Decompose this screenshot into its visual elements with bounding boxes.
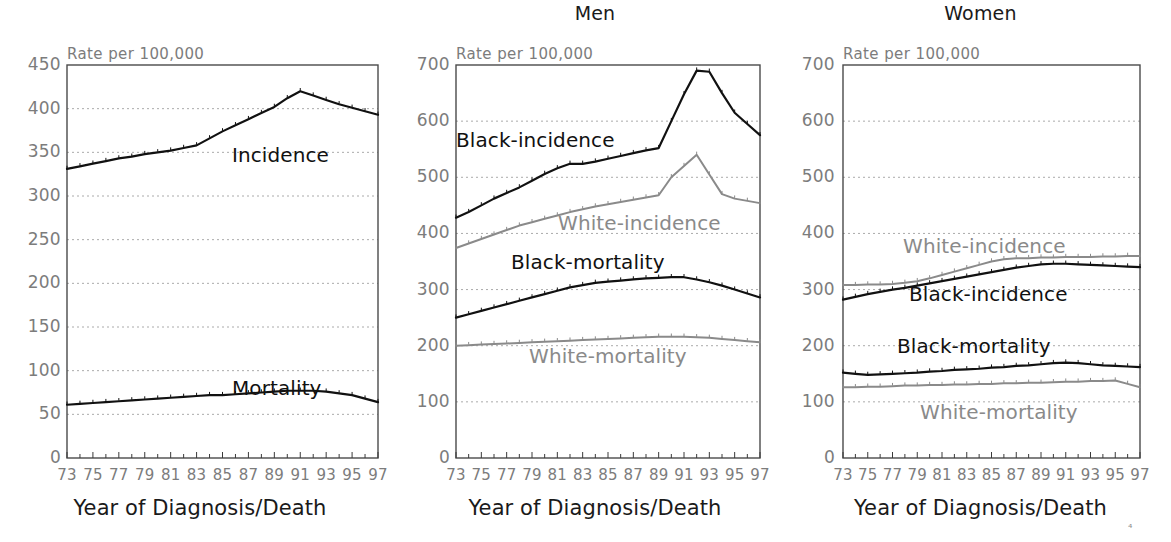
x-axis-tick-overall: 81 <box>157 466 185 484</box>
y-axis-tick-women: 700 <box>793 54 835 74</box>
x-axis-tick-overall: 89 <box>260 466 288 484</box>
y-axis-tick-women: 100 <box>793 391 835 411</box>
series-label-white-mortality: White-mortality <box>920 400 1078 424</box>
x-axis-tick-overall: 93 <box>312 466 340 484</box>
plot-area-women <box>790 0 1171 542</box>
y-axis-tick-women: 500 <box>793 166 835 186</box>
x-axis-title-men: Year of Diagnosis/Death <box>400 496 790 520</box>
y-axis-tick-men: 700 <box>406 54 450 74</box>
y-axis-tick-men: 600 <box>406 110 450 130</box>
y-axis-tick-overall: 50 <box>18 403 61 423</box>
y-axis-tick-women: 200 <box>793 335 835 355</box>
chart-panel-overall: Rate per 100,000 Year of Diagnosis/Death… <box>0 0 400 542</box>
x-axis-tick-men: 73 <box>442 466 470 484</box>
y-axis-tick-women: 300 <box>793 279 835 299</box>
series-label-white-incidence: White-incidence <box>903 234 1066 258</box>
y-axis-tick-overall: 450 <box>18 54 61 74</box>
y-axis-tick-women: 600 <box>793 110 835 130</box>
x-axis-tick-overall: 97 <box>364 466 392 484</box>
y-axis-tick-women: 0 <box>793 447 835 467</box>
y-axis-tick-overall: 400 <box>18 98 61 118</box>
series-label-black-incidence: Black-incidence <box>456 128 615 152</box>
y-axis-tick-men: 200 <box>406 335 450 355</box>
y-axis-tick-women: 400 <box>793 222 835 242</box>
y-axis-tick-overall: 200 <box>18 272 61 292</box>
x-axis-title-overall: Year of Diagnosis/Death <box>0 496 400 520</box>
x-axis-tick-men: 87 <box>619 466 647 484</box>
x-axis-title-women: Year of Diagnosis/Death <box>790 496 1171 520</box>
corner-artifact-mark: ⁴ <box>1128 522 1132 535</box>
y-axis-tick-overall: 100 <box>18 360 61 380</box>
chart-panel-men: Men Rate per 100,000 Year of Diagnosis/D… <box>400 0 790 542</box>
x-axis-tick-men: 79 <box>518 466 546 484</box>
x-axis-tick-men: 75 <box>467 466 495 484</box>
y-axis-tick-men: 100 <box>406 391 450 411</box>
series-label-incidence: Incidence <box>232 143 329 167</box>
x-axis-tick-men: 77 <box>493 466 521 484</box>
series-label-white-incidence: White-incidence <box>558 211 721 235</box>
x-axis-tick-men: 91 <box>670 466 698 484</box>
x-axis-tick-men: 85 <box>594 466 622 484</box>
y-axis-tick-overall: 250 <box>18 229 61 249</box>
x-axis-tick-men: 97 <box>746 466 774 484</box>
x-axis-tick-overall: 77 <box>105 466 133 484</box>
y-axis-tick-overall: 300 <box>18 185 61 205</box>
y-axis-tick-overall: 0 <box>18 447 61 467</box>
x-axis-tick-women: 97 <box>1126 466 1154 484</box>
x-axis-tick-men: 83 <box>569 466 597 484</box>
y-axis-tick-men: 400 <box>406 222 450 242</box>
x-axis-tick-overall: 85 <box>209 466 237 484</box>
x-axis-tick-overall: 83 <box>183 466 211 484</box>
y-axis-tick-men: 300 <box>406 279 450 299</box>
x-axis-tick-overall: 73 <box>53 466 81 484</box>
x-axis-tick-overall: 95 <box>338 466 366 484</box>
x-axis-tick-men: 89 <box>645 466 673 484</box>
y-axis-tick-overall: 150 <box>18 316 61 336</box>
x-axis-tick-overall: 75 <box>79 466 107 484</box>
y-axis-tick-men: 500 <box>406 166 450 186</box>
series-label-black-mortality: Black-mortality <box>897 334 1051 358</box>
x-axis-tick-men: 81 <box>543 466 571 484</box>
series-label-mortality: Mortality <box>232 376 322 400</box>
series-label-white-mortality: White-mortality <box>529 344 687 368</box>
series-label-black-incidence: Black-incidence <box>909 282 1068 306</box>
chart-panel-women: Women Rate per 100,000 Year of Diagnosis… <box>790 0 1171 542</box>
x-axis-tick-men: 93 <box>695 466 723 484</box>
x-axis-tick-overall: 79 <box>131 466 159 484</box>
y-axis-tick-overall: 350 <box>18 141 61 161</box>
x-axis-tick-overall: 91 <box>286 466 314 484</box>
x-axis-tick-overall: 87 <box>234 466 262 484</box>
y-axis-tick-men: 0 <box>406 447 450 467</box>
series-label-black-mortality: Black-mortality <box>511 250 665 274</box>
x-axis-tick-men: 95 <box>721 466 749 484</box>
